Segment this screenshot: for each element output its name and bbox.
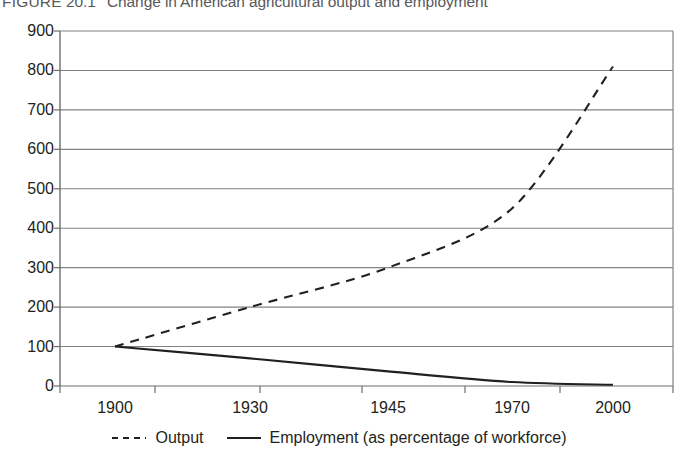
figure-caption: Change in American agricultural output a… bbox=[107, 0, 488, 10]
figure-label: FIGURE bbox=[2, 0, 62, 10]
plot-area bbox=[0, 25, 678, 395]
x-axis-tick-label: 2000 bbox=[573, 398, 653, 418]
x-axis-tick-label: 1930 bbox=[210, 398, 290, 418]
y-axis-tick-label: 500 bbox=[0, 181, 54, 197]
chart-legend: OutputEmployment (as percentage of workf… bbox=[0, 424, 678, 452]
legend-dashed-line-icon bbox=[111, 432, 147, 444]
y-axis-tick-label: 400 bbox=[0, 220, 54, 236]
chart-svg bbox=[0, 25, 678, 395]
y-axis-tick-label: 800 bbox=[0, 62, 54, 78]
legend-item: Output bbox=[111, 428, 203, 448]
y-axis-tick-label: 200 bbox=[0, 299, 54, 315]
y-axis-tick-label: 0 bbox=[0, 378, 54, 394]
legend-label: Output bbox=[155, 428, 203, 448]
x-tick-marks-group bbox=[60, 386, 673, 393]
series-line-employment bbox=[115, 347, 613, 385]
y-axis-tick-label: 300 bbox=[0, 260, 54, 276]
y-axis-tick-label: 700 bbox=[0, 102, 54, 118]
y-axis-tick-label: 600 bbox=[0, 141, 54, 157]
x-axis-tick-label: 1900 bbox=[75, 398, 155, 418]
x-axis-labels: 19001930194519702000 bbox=[0, 398, 678, 420]
figure-container: FIGURE 20.1 Change in American agricultu… bbox=[0, 0, 678, 458]
gridlines-group bbox=[54, 31, 673, 386]
x-axis-tick-label: 1970 bbox=[472, 398, 552, 418]
figure-number: 20.1 bbox=[66, 0, 96, 10]
y-axis-tick-label: 100 bbox=[0, 339, 54, 355]
y-axis-labels: 0100200300400500600700800900 bbox=[0, 25, 54, 395]
y-axis-tick-label: 900 bbox=[0, 23, 54, 39]
series-line-output bbox=[115, 67, 613, 347]
legend-label: Employment (as percentage of workforce) bbox=[270, 428, 567, 448]
figure-title: FIGURE 20.1 Change in American agricultu… bbox=[2, 0, 678, 13]
legend-solid-line-icon bbox=[226, 432, 262, 444]
x-axis-tick-label: 1945 bbox=[348, 398, 428, 418]
legend-item: Employment (as percentage of workforce) bbox=[226, 428, 567, 448]
